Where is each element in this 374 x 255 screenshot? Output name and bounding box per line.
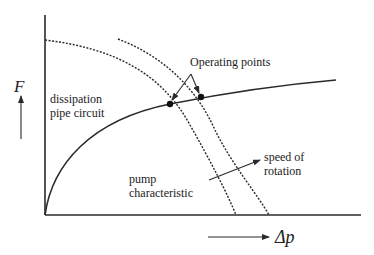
dissipation-label-line2: pipe circuit <box>50 106 105 120</box>
pump-label-line1: pump <box>129 172 156 186</box>
pump-label-line2: characteristic <box>129 186 193 200</box>
speed-of-rotation-arrow <box>209 160 260 180</box>
operating-point-1 <box>167 101 173 107</box>
dissipation-label-line1: dissipation <box>50 92 102 106</box>
x-axis-symbol: Δp <box>274 227 295 247</box>
speed-label-line1: speed of <box>264 150 304 164</box>
operating-point-2 <box>198 94 204 100</box>
speed-label-line2: rotation <box>264 164 301 178</box>
operating-point-2-arrow <box>191 74 199 93</box>
pump-operating-diagram: Operating points F dissipation pipe circ… <box>0 0 374 255</box>
operating-points-label: Operating points <box>190 55 271 69</box>
y-axis-symbol: F <box>13 77 25 96</box>
